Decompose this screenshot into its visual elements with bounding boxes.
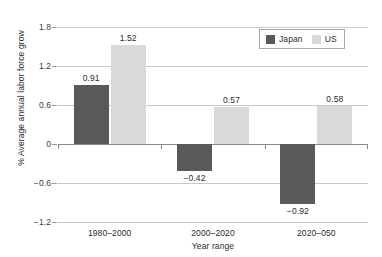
bar-chart-figure: 1.81.20.60−0.6−1.2 0.911.52−0.420.57−0.9… [0,0,382,257]
gridline [58,66,368,67]
y-axis-tick-mark [52,222,57,223]
legend-entry-us[interactable]: US [312,34,337,44]
x-axis-tick-mark [161,145,162,149]
gridline [58,222,368,223]
x-axis-tick-mark [265,145,266,149]
gridline [58,27,368,28]
y-axis-tick-label: 0.6 [39,100,51,110]
x-axis-tick-label: 1980–2000 [58,228,161,238]
legend-label-us: US [325,34,337,44]
y-axis-tick-mark [52,144,57,145]
y-axis-tick-mark [52,105,57,106]
y-axis-tick-mark [52,66,57,67]
bar-japan-0[interactable] [74,85,109,144]
bar-value-label: −0.42 [169,173,220,183]
legend-entry-japan[interactable]: Japan [266,34,303,44]
y-axis-tick-label: 0 [46,139,51,149]
bar-us-0[interactable] [111,45,146,144]
bar-japan-2[interactable] [280,144,315,204]
y-axis-title: % Average annual labor force grow [16,13,26,183]
bar-japan-1[interactable] [177,144,212,171]
bar-us-2[interactable] [317,106,352,144]
bar-value-label: 0.91 [66,73,117,83]
bar-value-label: −0.92 [272,206,323,216]
legend-swatch-japan-icon [266,35,275,44]
y-axis-tick-label: 1.2 [39,61,51,71]
y-axis-tick-mark [52,27,57,28]
plot-area: 0.911.52−0.420.57−0.920.58 [58,27,368,222]
y-axis-tick-label: −0.6 [34,178,51,188]
zero-axis-line [58,144,368,145]
y-axis-tick-mark [52,183,57,184]
x-axis-tick-label: 2020–050 [265,228,368,238]
x-axis-tick-label: 2000–2020 [161,228,264,238]
x-axis-tick-mark [58,145,59,149]
bar-value-label: 1.52 [103,33,154,43]
bar-us-1[interactable] [214,107,249,144]
y-axis-tick-label: 1.8 [39,22,51,32]
x-axis-title: Year range [58,241,368,251]
y-axis-tick-label: −1.2 [34,217,51,227]
legend-label-japan: Japan [279,34,303,44]
legend: Japan US [259,29,345,49]
legend-swatch-us-icon [312,35,321,44]
x-axis-tick-mark [367,145,368,149]
bar-value-label: 0.58 [309,94,360,104]
bar-value-label: 0.57 [206,95,257,105]
